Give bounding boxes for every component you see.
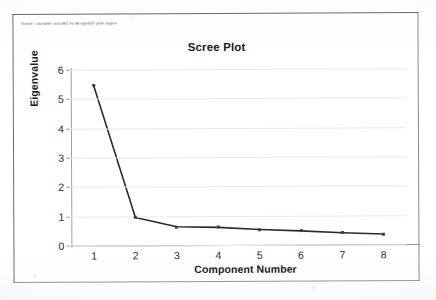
scree-plot-chart: Scree Plot Eigenvalue 0123456 Component … [13,13,420,284]
y-axis-tick [66,158,70,159]
y-axis-tick-label: 3 [58,152,64,164]
x-axis-tick-label: 7 [339,248,345,260]
y-axis-tick [66,70,70,71]
stata-output-window: factor: variable vocab1 to designb2/ plo… [12,12,419,283]
data-point-marker [92,84,95,87]
data-point-marker [134,216,137,219]
x-axis-tick-label: 3 [174,249,180,261]
data-point-marker [382,232,385,235]
x-axis-tick-label: 1 [91,250,97,262]
data-point-marker [175,225,178,228]
data-point-marker [258,228,261,231]
x-axis-title: Component Number [72,262,420,276]
x-axis-tick-label: 5 [257,249,263,261]
y-gridline [71,244,406,246]
y-axis-title: Eigenvalue [28,50,40,107]
plot-area: 0123456 [71,68,407,245]
y-axis-tick-label: 0 [59,240,65,252]
x-axis-tick-label: 6 [298,249,304,261]
x-axis-tick-label: 8 [381,248,387,260]
x-axis-tick-label: 2 [133,249,139,261]
y-axis-tick [66,246,70,247]
y-axis-tick [66,99,70,100]
y-axis-tick-label: 6 [58,64,64,76]
data-point-marker [341,231,344,234]
y-axis-tick-label: 4 [58,122,64,134]
y-axis-tick-label: 2 [58,181,64,193]
data-point-marker [299,229,302,232]
data-point-marker [217,226,220,229]
y-axis-tick [66,216,70,217]
y-axis-tick-label: 5 [58,93,64,105]
chart-title: Scree Plot [14,40,420,54]
y-axis-tick-label: 1 [58,210,64,222]
scanned-page: factor: variable vocab1 to designb2/ plo… [0,0,436,300]
y-axis-tick [66,128,70,129]
y-axis-tick [66,187,70,188]
x-axis-tick-label: 4 [215,249,221,261]
